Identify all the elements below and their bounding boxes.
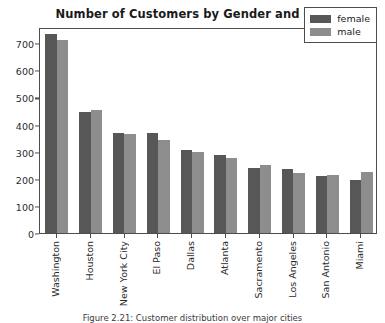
bar-group: [316, 29, 339, 233]
bar-group: [147, 29, 170, 233]
legend-swatch-male-icon: [310, 28, 331, 36]
bar-female: [248, 168, 259, 233]
bar-male: [260, 165, 271, 233]
y-axis-tick-label: 300: [16, 147, 34, 158]
legend: female male: [304, 7, 377, 43]
x-axis-tick-mark: [56, 234, 57, 238]
y-axis-tick-label: 400: [16, 120, 34, 131]
legend-swatch-female-icon: [310, 15, 331, 23]
legend-label-male: male: [337, 26, 361, 37]
x-axis-tick-mark: [326, 234, 327, 238]
bar-male: [158, 140, 169, 234]
x-axis-tick-label: Houston: [84, 241, 95, 280]
x-axis-tick-label: Atlanta: [219, 241, 230, 275]
legend-item-female: female: [310, 12, 370, 25]
bar-male: [57, 40, 68, 233]
x-axis-tick-label: New York City: [118, 241, 129, 306]
x-axis-tick-mark: [360, 234, 361, 238]
bar-female: [350, 180, 361, 233]
bar-female: [113, 133, 124, 233]
bar-female: [214, 155, 225, 233]
bar-male: [361, 172, 372, 233]
bar-male: [293, 173, 304, 233]
y-axis-tick-label: 700: [16, 39, 34, 50]
x-axis-tick-mark: [191, 234, 192, 238]
x-axis-tick-mark: [124, 234, 125, 238]
y-axis: 0100200300400500600700: [0, 28, 39, 234]
x-axis-tick-label: Dallas: [185, 241, 196, 270]
bar-group: [79, 29, 102, 233]
bar-male: [226, 158, 237, 233]
x-axis-tick-label: Washington: [50, 241, 61, 297]
bar-group: [282, 29, 305, 233]
x-axis-tick-mark: [293, 234, 294, 238]
bars-layer: [40, 29, 376, 233]
y-axis-tick-label: 500: [16, 93, 34, 104]
bar-female: [316, 176, 327, 233]
x-axis-tick-label: Los Angeles: [287, 241, 298, 298]
bar-female: [79, 112, 90, 233]
bar-female: [45, 34, 56, 233]
bar-group: [181, 29, 204, 233]
bar-group: [350, 29, 373, 233]
bar-female: [282, 169, 293, 234]
x-axis-tick-mark: [90, 234, 91, 238]
bar-male: [192, 152, 203, 233]
x-axis-tick-label: El Paso: [151, 241, 162, 275]
y-axis-tick-label: 0: [28, 229, 34, 240]
bar-male: [124, 134, 135, 233]
legend-label-female: female: [337, 13, 370, 24]
x-axis-tick-mark: [259, 234, 260, 238]
x-axis-tick-mark: [157, 234, 158, 238]
figure-caption: Figure 2.21: Customer distribution over …: [0, 313, 385, 323]
bar-male: [327, 175, 338, 233]
x-axis-tick-label: Miami: [354, 241, 365, 270]
bar-female: [147, 133, 158, 233]
legend-item-male: male: [310, 25, 370, 38]
bar-group: [248, 29, 271, 233]
x-axis-tick-mark: [225, 234, 226, 238]
x-axis: WashingtonHoustonNew York CityEl PasoDal…: [39, 234, 377, 320]
x-axis-tick-label: San Antonio: [320, 241, 331, 298]
bar-group: [113, 29, 136, 233]
bar-group: [45, 29, 68, 233]
bar-male: [91, 110, 102, 233]
y-axis-tick-label: 200: [16, 174, 34, 185]
plot-area: [39, 28, 377, 234]
bar-female: [181, 150, 192, 233]
bar-group: [214, 29, 237, 233]
x-axis-tick-label: Sacramento: [253, 241, 264, 298]
y-axis-tick-label: 600: [16, 66, 34, 77]
y-axis-tick-label: 100: [16, 201, 34, 212]
